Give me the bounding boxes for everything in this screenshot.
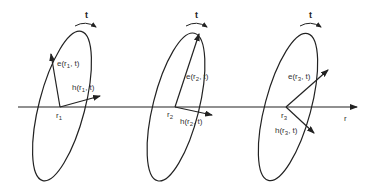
position-label: r2 — [167, 110, 174, 120]
field-rotation-diagram: r te(r1, t)h(r1, t)r1te(r2, t)h(r2, t)r2… — [0, 0, 376, 194]
position-label: r1 — [56, 111, 63, 121]
field-sections: te(r1, t)h(r1, t)r1te(r2, t)h(r2, t)r2te… — [20, 10, 329, 186]
time-label: t — [85, 10, 88, 20]
axis-label-r: r — [344, 114, 347, 123]
h-field-vector — [60, 96, 100, 107]
e-field-label: e(r2, t) — [186, 72, 209, 82]
field-section-3: te(r3, t)h(r3, t)r3 — [246, 10, 330, 186]
field-section-2: te(r2, t)h(r2, t)r2 — [135, 10, 216, 186]
rotation-arrow-icon — [300, 23, 321, 27]
e-field-label: e(r3, t) — [288, 72, 311, 82]
h-field-label: h(r3, t) — [275, 126, 298, 136]
h-field-label: h(r2, t) — [180, 117, 203, 127]
e-field-vector — [175, 34, 199, 107]
time-label: t — [195, 10, 198, 20]
rotation-arrow-icon — [186, 23, 207, 27]
time-label: t — [309, 10, 312, 20]
position-label: r3 — [281, 111, 288, 121]
h-field-vector — [175, 107, 212, 115]
rotation-arrow-icon — [75, 23, 96, 27]
h-field-label: h(r1, t) — [72, 83, 95, 93]
e-field-label: e(r1, t) — [57, 59, 80, 69]
field-section-1: te(r1, t)h(r1, t)r1 — [20, 10, 103, 186]
